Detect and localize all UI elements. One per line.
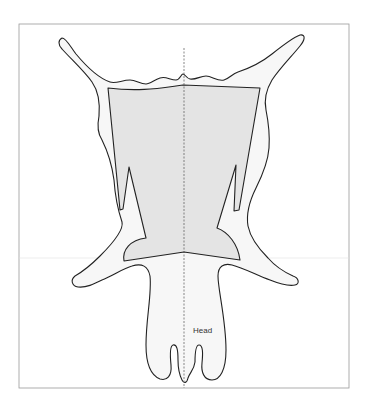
hide-diagram [0,0,370,410]
head-label: Head [193,327,212,335]
